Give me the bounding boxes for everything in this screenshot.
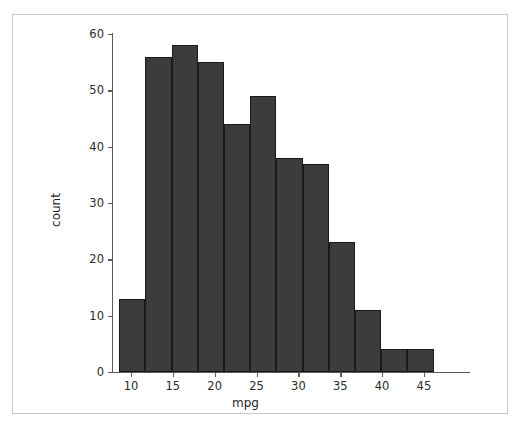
histogram-bar [381, 349, 407, 372]
x-tick-label: 15 [166, 379, 181, 393]
x-tick-mark [424, 373, 425, 377]
y-tick-mark [108, 90, 112, 91]
y-tick-mark [108, 147, 112, 148]
histogram-bar [355, 310, 381, 372]
histogram-bar [119, 299, 145, 372]
y-tick-label: 0 [97, 365, 104, 379]
x-tick-mark [382, 373, 383, 377]
x-axis-title: mpg [0, 396, 521, 410]
y-tick-label: 60 [89, 27, 104, 41]
x-tick-label: 30 [291, 379, 306, 393]
x-axis-title-text: mpg [232, 396, 259, 410]
histogram-screenshot: 1015202530354045 0102030405060 mpg count [0, 0, 521, 427]
x-tick-label: 10 [124, 379, 139, 393]
x-tick-mark [215, 373, 216, 377]
y-tick-label: 40 [89, 140, 104, 154]
x-tick-mark [173, 373, 174, 377]
y-axis-title: count [49, 150, 63, 270]
x-tick-label: 25 [249, 379, 264, 393]
y-tick-label: 50 [89, 83, 104, 97]
x-tick-mark [131, 373, 132, 377]
histogram-bar [250, 96, 276, 372]
x-tick-label: 35 [333, 379, 348, 393]
x-tick-label: 20 [207, 379, 222, 393]
histogram-bar [329, 242, 355, 372]
histogram-bar [224, 124, 250, 372]
x-tick-label: 40 [375, 379, 390, 393]
plot-area: 1015202530354045 0102030405060 mpg count [0, 0, 521, 427]
histogram-bar [303, 164, 329, 372]
histogram-bar [172, 45, 198, 372]
y-axis-line [112, 33, 113, 372]
y-tick-label: 20 [89, 252, 104, 266]
histogram-bar [145, 57, 171, 372]
y-tick-label: 30 [89, 196, 104, 210]
histogram-bar [198, 62, 224, 372]
y-tick-mark [108, 203, 112, 204]
y-tick-mark [108, 316, 112, 317]
x-tick-label: 45 [417, 379, 432, 393]
x-tick-mark [257, 373, 258, 377]
y-tick-mark [108, 34, 112, 35]
x-tick-mark [340, 373, 341, 377]
y-tick-mark [108, 259, 112, 260]
x-tick-mark [298, 373, 299, 377]
histogram-bar [276, 158, 302, 372]
y-tick-label: 10 [89, 309, 104, 323]
x-axis-line [112, 372, 470, 373]
histogram-bar [407, 349, 433, 372]
y-tick-mark [108, 372, 112, 373]
